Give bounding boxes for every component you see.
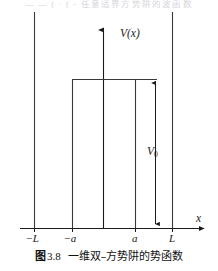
tick-label-negative-a: −a [64, 233, 76, 244]
figure-caption: 图3.8一维双–方势阱的势函数 [0, 249, 218, 264]
tick-label-negative-L-text: L [33, 232, 39, 244]
barrier-height-subscript: 0 [154, 150, 158, 159]
caption-number: 3.8 [46, 250, 63, 262]
y-axis-label: V(x) [120, 28, 140, 40]
barrier-height-symbol: V [147, 145, 154, 157]
caption-label: 图 [35, 250, 46, 263]
tick-label-negative-a-text: a [71, 232, 77, 244]
y-axis-label-text: V(x) [120, 27, 140, 39]
barrier-height-label: V0 [147, 146, 158, 158]
minus-sign-icon: − [64, 232, 71, 244]
tick-label-negative-L: −L [26, 233, 39, 244]
figure-container: — — ( · ( - 任意适界方势阱的波函数 [0, 0, 218, 271]
tick-label-positive-a: a [132, 233, 138, 244]
minus-sign-icon: − [26, 232, 33, 244]
tick-label-positive-L-text: L [169, 232, 175, 244]
potential-well-plot [0, 0, 218, 271]
x-axis-label: x [196, 213, 201, 225]
x-axis-label-text: x [196, 212, 201, 224]
caption-text: 一维双–方势阱的势函数 [63, 250, 184, 263]
tick-label-positive-a-text: a [132, 232, 138, 244]
tick-label-positive-L: L [169, 233, 175, 244]
